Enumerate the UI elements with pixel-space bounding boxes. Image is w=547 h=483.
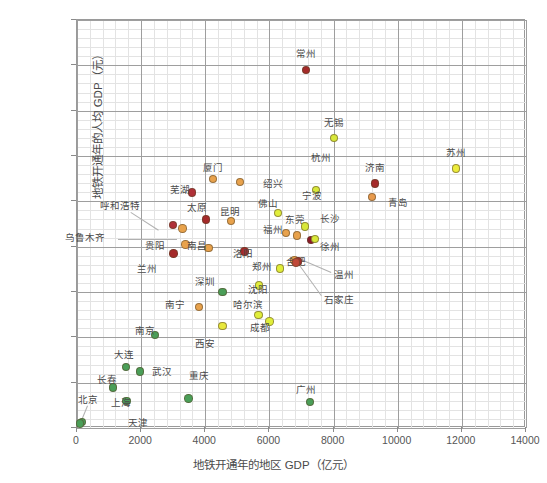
- data-point-label: 天津: [128, 418, 148, 428]
- y-axis-tick-mark: [71, 155, 76, 156]
- data-point-label: 厦门: [203, 163, 223, 173]
- data-point-label: 佛山: [258, 199, 278, 209]
- data-point[interactable]: [254, 311, 262, 319]
- y-axis-tick-mark: [71, 291, 76, 292]
- data-point[interactable]: [368, 193, 376, 201]
- x-axis-tick-label: 8000: [321, 434, 344, 446]
- chart-overlay: 0200004000060000800001000001200001400001…: [0, 0, 547, 483]
- x-axis-tick-label: 10000: [382, 434, 411, 446]
- data-point[interactable]: [218, 322, 226, 330]
- x-axis-tick-label: 4000: [193, 434, 216, 446]
- data-point-label: 苏州: [446, 148, 466, 158]
- data-point-label: 杭州: [311, 153, 331, 163]
- data-point[interactable]: [227, 217, 235, 225]
- data-point-label: 郑州: [252, 262, 272, 272]
- data-point[interactable]: [202, 215, 210, 223]
- data-point[interactable]: [292, 258, 300, 266]
- data-point-label: 青岛: [388, 198, 408, 208]
- data-point-label: 大连: [114, 350, 134, 360]
- data-point-label: 西安: [195, 339, 215, 349]
- x-axis-tick-label: 0: [73, 434, 79, 446]
- data-point-label: 南昌: [187, 241, 207, 251]
- data-point-label: 芜湖: [170, 185, 190, 195]
- data-point-label: 广州: [296, 385, 316, 395]
- data-point[interactable]: [274, 209, 282, 217]
- data-point-label: 沈阳: [248, 285, 268, 295]
- data-point[interactable]: [371, 179, 379, 187]
- data-point[interactable]: [136, 367, 144, 375]
- x-axis-tick-mark: [76, 427, 77, 432]
- data-point[interactable]: [218, 288, 226, 296]
- data-point-label: 徐州: [320, 242, 340, 252]
- data-point-label: 洛阳: [233, 249, 253, 259]
- x-axis-tick-mark: [204, 427, 205, 432]
- x-axis-label: 地铁开通年的地区 GDP（亿元）: [0, 456, 547, 472]
- data-point-label: 哈尔滨: [233, 300, 263, 310]
- data-point-label: 福州: [263, 225, 283, 235]
- data-point[interactable]: [302, 66, 310, 74]
- data-point[interactable]: [178, 224, 186, 232]
- data-point[interactable]: [311, 235, 319, 243]
- data-point[interactable]: [301, 222, 309, 230]
- x-axis-tick-label: 14000: [510, 434, 539, 446]
- data-point-label: 长春: [97, 375, 117, 385]
- data-point[interactable]: [169, 221, 177, 229]
- data-point-label: 深圳: [195, 277, 215, 287]
- x-axis-tick-mark: [397, 427, 398, 432]
- y-axis-tick-mark: [71, 19, 76, 20]
- data-point-label: 南宁: [165, 300, 185, 310]
- data-point-label: 成都: [250, 323, 270, 333]
- data-point[interactable]: [195, 303, 203, 311]
- data-point[interactable]: [330, 134, 338, 142]
- x-axis-tick-label: 12000: [446, 434, 475, 446]
- x-axis-tick-mark: [268, 427, 269, 432]
- x-axis-tick-mark: [525, 427, 526, 432]
- data-point-label: 南京: [135, 326, 155, 336]
- y-axis-tick-mark: [71, 110, 76, 111]
- y-axis-tick-mark: [71, 200, 76, 201]
- data-point[interactable]: [293, 231, 301, 239]
- data-point[interactable]: [276, 264, 284, 272]
- data-point-label: 贵阳: [145, 241, 165, 251]
- y-axis-tick-mark: [71, 246, 76, 247]
- data-point[interactable]: [209, 175, 217, 183]
- data-point[interactable]: [169, 249, 177, 257]
- data-point-label: 常州: [296, 49, 316, 59]
- data-point-label: 武汉: [152, 367, 172, 377]
- data-point-label: 石家庄: [324, 295, 354, 305]
- data-point-label: 济南: [365, 163, 385, 173]
- x-axis-tick-mark: [333, 427, 334, 432]
- data-point-label: 太原: [187, 203, 207, 213]
- data-point-label: 上海: [111, 398, 131, 408]
- data-point[interactable]: [76, 419, 84, 427]
- data-point[interactable]: [452, 164, 460, 172]
- data-point-label: 温州: [334, 270, 354, 280]
- data-point-label: 呼和浩特: [100, 201, 140, 211]
- data-point-label: 长沙: [320, 214, 340, 224]
- data-point-label: 无锡: [324, 118, 344, 128]
- data-point-label: 兰州: [137, 264, 157, 274]
- y-axis-tick-mark: [71, 382, 76, 383]
- x-axis-tick-label: 6000: [257, 434, 280, 446]
- data-point[interactable]: [184, 394, 192, 402]
- scatter-chart: 0200004000060000800001000001200001400001…: [0, 0, 547, 483]
- x-axis-tick-label: 2000: [128, 434, 151, 446]
- x-axis-tick-mark: [461, 427, 462, 432]
- data-point-label: 昆明: [220, 207, 240, 217]
- data-point-label: 乌鲁木齐: [65, 233, 105, 243]
- data-point[interactable]: [122, 363, 130, 371]
- data-point[interactable]: [236, 178, 244, 186]
- y-axis-label: 地铁开通年的人均 GDP（元）: [89, 19, 105, 229]
- data-point-label: 北京: [78, 395, 98, 405]
- data-point-label: 宁波: [302, 191, 322, 201]
- data-point-label: 重庆: [189, 371, 209, 381]
- data-point[interactable]: [306, 398, 314, 406]
- y-axis-tick-mark: [71, 64, 76, 65]
- label-leader-line: [130, 212, 159, 231]
- data-point-label: 绍兴: [263, 179, 283, 189]
- y-axis-tick-mark: [71, 336, 76, 337]
